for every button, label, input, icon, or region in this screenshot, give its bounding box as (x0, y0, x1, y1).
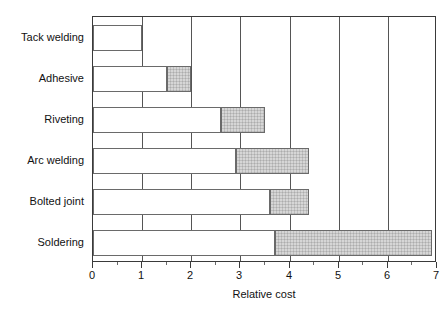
category-label-riveting: Riveting (0, 106, 84, 132)
x-tick-0 (92, 262, 93, 268)
bar-row (93, 230, 437, 256)
x-tick-4 (289, 262, 290, 268)
x-minor-tick (411, 262, 412, 265)
bar-row (93, 66, 437, 92)
bar-row (93, 148, 437, 174)
gridline-x-2 (191, 17, 192, 261)
category-label-tack-welding: Tack welding (0, 24, 84, 50)
bar-row (93, 189, 437, 215)
x-tick-5 (338, 262, 339, 268)
bar-row (93, 107, 437, 133)
x-tick-3 (239, 262, 240, 268)
category-label-arc-welding: Arc welding (0, 147, 84, 173)
bar-segment-low (93, 230, 275, 256)
x-tick-2 (190, 262, 191, 268)
x-minor-tick (215, 262, 216, 265)
x-tick-label-5: 5 (328, 269, 348, 281)
x-tick-label-0: 0 (82, 269, 102, 281)
x-minor-tick (166, 262, 167, 265)
x-minor-tick (362, 262, 363, 265)
bar-segment-low (93, 148, 236, 174)
x-minor-tick (264, 262, 265, 265)
bar-segment-low (93, 25, 142, 51)
x-tick-label-1: 1 (131, 269, 151, 281)
chart-title (92, 0, 436, 2)
x-minor-tick (313, 262, 314, 265)
category-label-soldering: Soldering (0, 229, 84, 255)
gridline-x-5 (339, 17, 340, 261)
bar-segment-low (93, 66, 167, 92)
x-axis-title: Relative cost (92, 288, 436, 300)
x-tick-1 (141, 262, 142, 268)
bar-segment-high (236, 148, 309, 174)
bar-segment-low (93, 107, 221, 133)
x-tick-7 (436, 262, 437, 268)
bar-segment-high (270, 189, 309, 215)
gridline-x-4 (290, 17, 291, 261)
bar-segment-high (221, 107, 265, 133)
x-minor-tick (117, 262, 118, 265)
plot-area (92, 16, 436, 262)
category-label-bolted-joint: Bolted joint (0, 188, 84, 214)
gridline-x-3 (240, 17, 241, 261)
x-tick-6 (387, 262, 388, 268)
bar-segment-high (275, 230, 432, 256)
x-tick-label-2: 2 (180, 269, 200, 281)
x-tick-label-4: 4 (279, 269, 299, 281)
relative-cost-bar-chart: Relative cost Tack weldingAdhesiveRiveti… (0, 0, 448, 311)
x-tick-label-6: 6 (377, 269, 397, 281)
gridline-x-6 (388, 17, 389, 261)
bar-segment-high (167, 66, 191, 92)
x-tick-label-3: 3 (229, 269, 249, 281)
x-tick-label-7: 7 (426, 269, 446, 281)
category-label-adhesive: Adhesive (0, 65, 84, 91)
bar-segment-low (93, 189, 270, 215)
bar-row (93, 25, 437, 51)
gridline-x-1 (142, 17, 143, 261)
